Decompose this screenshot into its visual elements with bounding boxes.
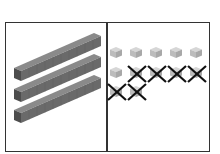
tens-rods (14, 33, 101, 123)
base-ten-blocks (0, 0, 220, 154)
